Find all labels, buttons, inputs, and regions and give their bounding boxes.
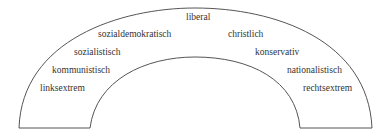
- label-nationalistisch: nationalistisch: [287, 65, 342, 75]
- label-rechtsextrem: rechtsextrem: [303, 83, 353, 93]
- label-liberal: liberal: [186, 12, 211, 22]
- inner-arc: [90, 57, 300, 128]
- label-linksextrem: linksextrem: [40, 83, 85, 93]
- label-christlich: christlich: [228, 29, 264, 39]
- arch-shape: linksextrem kommunistisch sozialistisch …: [0, 0, 390, 139]
- label-kommunistisch: kommunistisch: [52, 65, 110, 75]
- label-konservativ: konservativ: [255, 47, 300, 57]
- political-spectrum-diagram: linksextrem kommunistisch sozialistisch …: [0, 0, 390, 139]
- label-sozialistisch: sozialistisch: [74, 47, 121, 57]
- label-sozialdemokratisch: sozialdemokratisch: [98, 29, 172, 39]
